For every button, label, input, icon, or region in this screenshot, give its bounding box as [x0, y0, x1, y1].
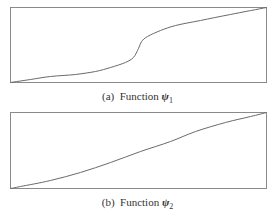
- chart-psi2: [0, 105, 275, 195]
- plot-frame: [11, 113, 267, 189]
- caption-word: Function: [120, 196, 159, 208]
- chart-psi1: [0, 0, 275, 90]
- caption-label: (a): [102, 90, 114, 102]
- caption-b: (b) Function ψ2: [0, 196, 275, 211]
- psi2-curve: [11, 113, 267, 189]
- psi1-curve: [11, 8, 267, 83]
- caption-label: (b): [102, 196, 115, 208]
- plot-frame: [11, 8, 267, 83]
- caption-subscript: 2: [169, 202, 173, 211]
- caption-a: (a) Function ψ1: [0, 90, 275, 105]
- caption-word: Function: [120, 90, 159, 102]
- panel-a: (a) Function ψ1: [0, 0, 275, 108]
- psi-symbol: ψ: [162, 90, 169, 102]
- caption-subscript: 1: [169, 96, 173, 105]
- panel-b: (b) Function ψ2: [0, 105, 275, 217]
